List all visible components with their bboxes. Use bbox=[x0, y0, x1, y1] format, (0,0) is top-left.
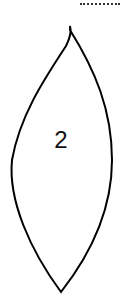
shape-label: 2 bbox=[0, 126, 122, 154]
